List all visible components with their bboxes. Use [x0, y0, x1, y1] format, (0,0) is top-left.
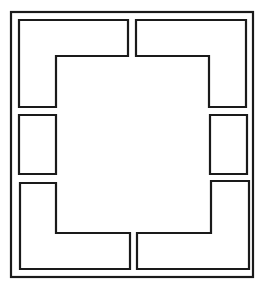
right-side-rect-panel: [210, 115, 247, 174]
bottom-left-l-panel: [20, 183, 130, 269]
left-side-rect-panel: [19, 115, 56, 174]
top-right-l-panel: [136, 20, 246, 107]
bottom-right-l-panel: [137, 181, 249, 269]
outer-frame: [11, 12, 253, 277]
frame-diagram: [0, 0, 263, 286]
top-left-l-panel: [19, 20, 128, 107]
panel-group: [19, 20, 249, 269]
